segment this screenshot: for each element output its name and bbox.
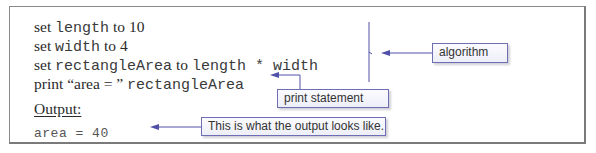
callout-output-note: This is what the output looks like.: [201, 117, 386, 136]
arrowhead-icon: [381, 50, 390, 56]
callout-algorithm: algorithm: [432, 43, 508, 63]
arrowhead-icon: [150, 124, 159, 130]
callout-print-statement: print statement: [277, 89, 389, 108]
arrowhead-icon: [270, 72, 279, 78]
